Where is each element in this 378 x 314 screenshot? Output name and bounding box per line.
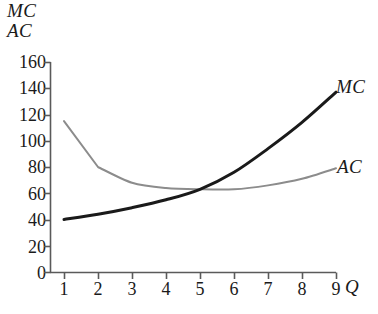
mc-curve: [64, 92, 336, 219]
cost-curves-chart: MC AC Q MC AC 160 140 120 100 80 60 40 2…: [0, 0, 378, 314]
y-axis: [44, 62, 51, 273]
plot-area: [0, 0, 378, 314]
x-axis: [50, 273, 337, 280]
ac-curve: [64, 121, 336, 190]
